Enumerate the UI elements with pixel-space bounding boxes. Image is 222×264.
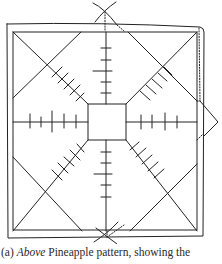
center-axes: [13, 32, 197, 231]
figure-caption: (a) Above Pineapple pattern, showing the: [1, 244, 222, 260]
center-square: [88, 104, 126, 140]
pineapple-pattern-diagram: [0, 0, 222, 244]
bottom-cross-mark: [94, 222, 124, 244]
caption-label: (a): [1, 246, 14, 258]
top-cross-mark: [93, 2, 124, 31]
caption-emphasis: Above: [17, 246, 46, 258]
inner-border: [13, 32, 197, 230]
corner-diagonals: [13, 32, 197, 231]
right-notch-mark: [197, 28, 218, 140]
caption-text: Pineapple pattern, showing the: [48, 246, 190, 258]
